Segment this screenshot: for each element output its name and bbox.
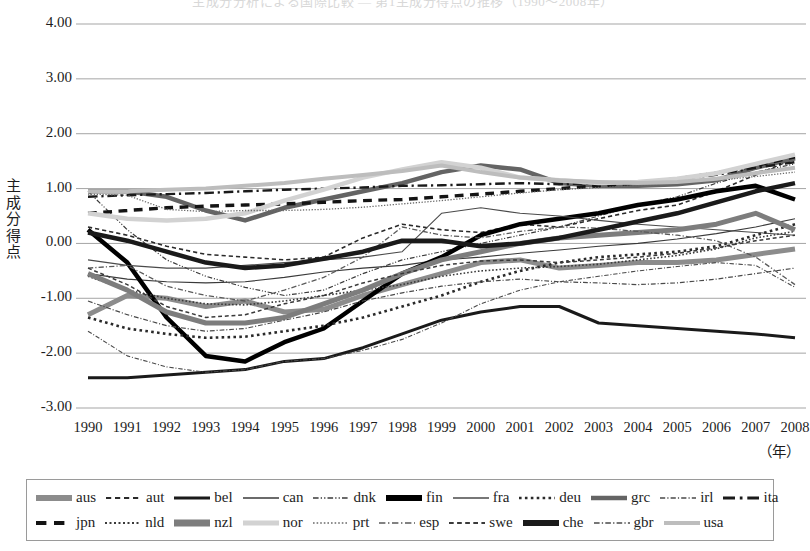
legend-label-nzl: nzl <box>214 514 232 531</box>
legend-item-fra[interactable]: fra <box>452 489 519 506</box>
legend-label-swe: swe <box>489 514 512 531</box>
legend-key-can <box>242 491 280 505</box>
legend-key-deu <box>518 491 556 505</box>
legend-label-bel: bel <box>214 489 232 506</box>
legend-item-dnk[interactable]: dnk <box>312 489 385 506</box>
legend-item-che[interactable]: che <box>522 514 593 531</box>
legend-item-swe[interactable]: swe <box>448 514 521 531</box>
legend-item-prt[interactable]: prt <box>312 514 379 531</box>
legend-key-esp <box>378 516 416 530</box>
legend-label-deu: deu <box>559 489 581 506</box>
x-tick-1996: 1996 <box>309 419 338 436</box>
legend-key-fra <box>452 491 490 505</box>
legend-key-grc <box>590 491 628 505</box>
x-tick-1990: 1990 <box>74 419 103 436</box>
chart-legend: ausautbelcandnkfinfradeugrcirlitajpnnldn… <box>26 479 774 541</box>
legend-key-fin <box>385 491 423 505</box>
legend-item-nld[interactable]: nld <box>104 514 173 531</box>
x-tick-1997: 1997 <box>348 419 377 436</box>
legend-label-dnk: dnk <box>353 489 376 506</box>
legend-label-grc: grc <box>631 489 650 506</box>
legend-label-jpn: jpn <box>76 514 95 531</box>
legend-label-ita: ita <box>763 489 778 506</box>
legend-item-irl[interactable]: irl <box>659 489 722 506</box>
x-tick-2007: 2007 <box>741 419 770 436</box>
legend-item-deu[interactable]: deu <box>518 489 590 506</box>
legend-label-usa: usa <box>704 514 724 531</box>
legend-item-usa[interactable]: usa <box>663 514 733 531</box>
legend-item-ita[interactable]: ita <box>722 489 787 506</box>
x-tick-1995: 1995 <box>270 419 299 436</box>
legend-key-bel <box>173 491 211 505</box>
legend-key-prt <box>312 516 350 530</box>
legend-item-aus[interactable]: aus <box>35 489 105 506</box>
legend-label-nor: nor <box>283 514 303 531</box>
legend-key-nor <box>242 516 280 530</box>
x-tick-2002: 2002 <box>545 419 574 436</box>
line-chart-svg <box>0 0 806 412</box>
legend-label-prt: prt <box>353 514 370 531</box>
x-tick-2003: 2003 <box>584 419 613 436</box>
x-tick-1991: 1991 <box>113 419 142 436</box>
legend-label-fin: fin <box>426 489 443 506</box>
legend-item-nor[interactable]: nor <box>242 514 312 531</box>
legend-key-che <box>522 516 560 530</box>
legend-label-che: che <box>563 514 584 531</box>
legend-key-usa <box>663 516 701 530</box>
legend-key-jpn <box>35 516 73 530</box>
legend-item-esp[interactable]: esp <box>378 514 448 531</box>
legend-item-bel[interactable]: bel <box>173 489 241 506</box>
x-tick-1994: 1994 <box>231 419 260 436</box>
legend-row-0: ausautbelcandnkfinfradeugrcirlita <box>35 485 765 510</box>
x-tick-2001: 2001 <box>506 419 535 436</box>
legend-item-fin[interactable]: fin <box>385 489 452 506</box>
legend-key-dnk <box>312 491 350 505</box>
legend-item-nzl[interactable]: nzl <box>173 514 241 531</box>
legend-label-nld: nld <box>145 514 164 531</box>
legend-label-aus: aus <box>76 489 96 506</box>
x-tick-2006: 2006 <box>702 419 731 436</box>
legend-key-gbr <box>593 516 631 530</box>
legend-key-nld <box>104 516 142 530</box>
legend-item-jpn[interactable]: jpn <box>35 514 104 531</box>
x-tick-2000: 2000 <box>466 419 495 436</box>
legend-key-aut <box>105 491 143 505</box>
legend-key-ita <box>722 491 760 505</box>
x-tick-2005: 2005 <box>663 419 692 436</box>
legend-key-nzl <box>173 516 211 530</box>
x-tick-2004: 2004 <box>623 419 652 436</box>
legend-label-esp: esp <box>419 514 439 531</box>
plot-area <box>0 0 806 412</box>
x-tick-1998: 1998 <box>388 419 417 436</box>
legend-key-irl <box>659 491 697 505</box>
legend-item-grc[interactable]: grc <box>590 489 659 506</box>
x-tick-1992: 1992 <box>152 419 181 436</box>
x-tick-2008: 2008 <box>781 419 810 436</box>
legend-key-aus <box>35 491 73 505</box>
legend-label-irl: irl <box>700 489 713 506</box>
x-tick-1993: 1993 <box>191 419 220 436</box>
legend-label-gbr: gbr <box>634 514 654 531</box>
x-axis-unit-label: （年） <box>758 440 800 461</box>
legend-item-gbr[interactable]: gbr <box>593 514 663 531</box>
x-axis-tick-labels: 1990199119921993199419951996199719981999… <box>0 419 806 439</box>
legend-label-can: can <box>283 489 304 506</box>
legend-label-fra: fra <box>493 489 510 506</box>
legend-item-aut[interactable]: aut <box>105 489 173 506</box>
legend-key-swe <box>448 516 486 530</box>
x-tick-1999: 1999 <box>427 419 456 436</box>
legend-label-aut: aut <box>146 489 164 506</box>
legend-item-can[interactable]: can <box>242 489 313 506</box>
legend-row-1: jpnnldnzlnorprtespswechegbrusa <box>35 510 765 535</box>
